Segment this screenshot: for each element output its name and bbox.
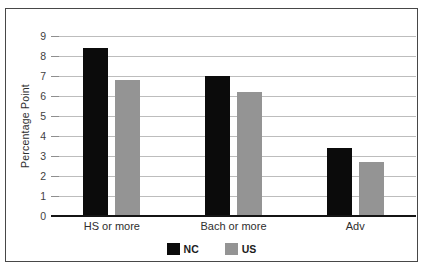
y-tick-6 bbox=[51, 96, 59, 97]
legend-item-us: US bbox=[225, 243, 257, 255]
plot-area bbox=[51, 36, 416, 216]
y-tick-label-3: 3 bbox=[14, 150, 46, 162]
bar-us-bach-or-more bbox=[237, 92, 262, 216]
bar-nc-hs-or-more bbox=[83, 48, 108, 216]
y-tick-9 bbox=[51, 36, 59, 37]
y-tick-label-9: 9 bbox=[14, 30, 46, 42]
gridline-9 bbox=[51, 36, 416, 37]
y-tick-7 bbox=[51, 76, 59, 77]
bar-us-adv bbox=[359, 162, 384, 216]
legend: NCUS bbox=[6, 243, 417, 255]
y-tick-label-4: 4 bbox=[14, 130, 46, 142]
legend-item-nc: NC bbox=[167, 243, 199, 255]
category-label-adv: Adv bbox=[346, 220, 365, 232]
legend-swatch-nc bbox=[167, 243, 180, 255]
x-axis-line bbox=[51, 215, 416, 217]
page: Percentage Point 0123456789 HS or moreBa… bbox=[0, 0, 425, 273]
y-tick-8 bbox=[51, 56, 59, 57]
y-tick-label-8: 8 bbox=[14, 50, 46, 62]
legend-label-nc: NC bbox=[184, 243, 199, 255]
y-tick-1 bbox=[51, 196, 59, 197]
legend-label-us: US bbox=[242, 243, 257, 255]
bar-us-hs-or-more bbox=[115, 80, 140, 216]
bar-nc-bach-or-more bbox=[205, 76, 230, 216]
y-tick-label-6: 6 bbox=[14, 90, 46, 102]
legend-swatch-us bbox=[225, 243, 238, 255]
y-tick-3 bbox=[51, 156, 59, 157]
y-tick-4 bbox=[51, 136, 59, 137]
chart-frame: Percentage Point 0123456789 HS or moreBa… bbox=[5, 8, 418, 262]
category-label-bach-or-more: Bach or more bbox=[200, 220, 266, 232]
category-label-hs-or-more: HS or more bbox=[84, 220, 140, 232]
bar-nc-adv bbox=[327, 148, 352, 216]
y-tick-label-2: 2 bbox=[14, 170, 46, 182]
y-tick-2 bbox=[51, 176, 59, 177]
y-tick-label-7: 7 bbox=[14, 70, 46, 82]
y-tick-5 bbox=[51, 116, 59, 117]
y-tick-label-1: 1 bbox=[14, 190, 46, 202]
y-tick-label-5: 5 bbox=[14, 110, 46, 122]
y-tick-label-0: 0 bbox=[14, 210, 46, 222]
